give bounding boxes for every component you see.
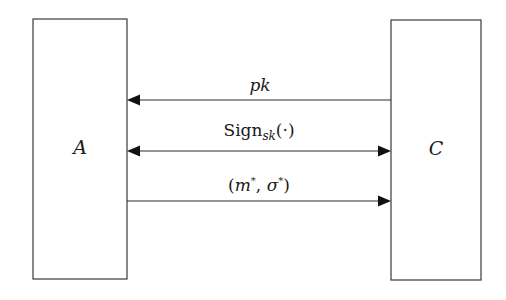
entity-c-label: C xyxy=(429,137,444,159)
message-sign-label: Signsk(·) xyxy=(223,120,294,143)
diagram-svg: A C pk Signsk(·) (m*, σ*) xyxy=(0,0,506,300)
entity-a: A xyxy=(33,19,127,279)
arrowhead-left-icon xyxy=(127,95,140,106)
arrowhead-right-icon xyxy=(378,146,391,157)
forgery-separator: , xyxy=(256,175,267,195)
protocol-diagram: A C pk Signsk(·) (m*, σ*) xyxy=(0,0,506,300)
sign-argument: (·) xyxy=(276,120,295,140)
message-sign-oracle: Signsk(·) xyxy=(127,120,391,157)
entity-a-label: A xyxy=(71,136,87,158)
message-forgery: (m*, σ*) xyxy=(127,175,391,207)
entity-c: C xyxy=(391,20,481,280)
message-pk-label: pk xyxy=(249,75,270,95)
forgery-close-paren: ) xyxy=(283,175,290,195)
sign-subscript: sk xyxy=(262,129,275,143)
message-forgery-label: (m*, σ*) xyxy=(228,175,290,195)
forgery-sigma: σ xyxy=(267,175,279,195)
sign-main-text: Sign xyxy=(223,120,262,140)
arrowhead-right-icon xyxy=(378,196,391,207)
forgery-m: m xyxy=(235,175,251,195)
forgery-open-paren: ( xyxy=(228,175,235,195)
arrowhead-left-icon xyxy=(127,146,140,157)
message-pk: pk xyxy=(127,75,391,106)
